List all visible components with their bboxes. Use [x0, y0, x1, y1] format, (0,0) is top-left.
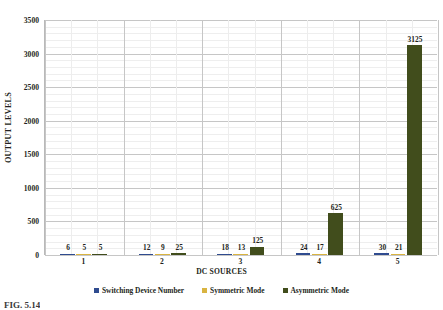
y-axis-tick-labels: 0500100015002000250030003500 [14, 20, 42, 255]
x-axis-category: 1 [81, 257, 85, 266]
bar-value-label: 125 [252, 236, 263, 245]
bar[interactable] [250, 247, 265, 255]
y-axis-tick: 500 [28, 217, 39, 226]
bar[interactable] [139, 254, 154, 255]
x-axis-category: 5 [396, 257, 400, 266]
y-axis-tick: 0 [35, 251, 39, 260]
bar-value-label: 3125 [408, 35, 423, 44]
legend-item[interactable]: Symmetric Mode [202, 286, 264, 295]
bar[interactable] [312, 254, 327, 255]
x-axis-category: 4 [317, 257, 321, 266]
major-gridline-vertical [438, 20, 439, 255]
bar-value-label: 625 [331, 203, 342, 212]
legend-item[interactable]: Switching Device Number [94, 286, 184, 295]
chart-legend: Switching Device NumberSymmetric ModeAsy… [0, 286, 443, 295]
bar[interactable] [217, 254, 232, 255]
legend-label: Asymmetric Mode [291, 286, 350, 295]
bar-chart: OUTPUT LEVELS 05001000150020002500300035… [0, 0, 443, 310]
bar-value-label: 12 [143, 243, 150, 252]
bar-value-label: 6 [66, 243, 70, 252]
bar[interactable] [76, 254, 91, 255]
y-axis-tick: 3500 [24, 16, 39, 25]
bar[interactable] [171, 253, 186, 255]
x-axis-category: 3 [239, 257, 243, 266]
bar-value-label: 13 [238, 243, 245, 252]
legend-swatch-icon [94, 288, 99, 293]
bar-value-label: 21 [395, 243, 402, 252]
y-axis-title-text: OUTPUT LEVELS [4, 92, 13, 163]
legend-label: Symmetric Mode [210, 286, 264, 295]
y-axis-tick: 2000 [24, 116, 39, 125]
bar-value-label: 25 [175, 243, 182, 252]
legend-item[interactable]: Asymmetric Mode [283, 286, 350, 295]
bar[interactable] [328, 213, 343, 255]
y-axis-tick: 2500 [24, 83, 39, 92]
bar-value-label: 5 [99, 243, 103, 252]
major-gridline-horizontal [45, 255, 437, 256]
legend-swatch-icon [283, 288, 288, 293]
x-axis-title: DC SOURCES [0, 267, 443, 276]
bar-value-label: 5 [82, 243, 86, 252]
bar[interactable] [92, 254, 107, 255]
bar[interactable] [233, 254, 248, 255]
bar[interactable] [374, 253, 389, 255]
x-axis-category: 2 [160, 257, 164, 266]
bars-layer: 655129251813125241762530213125 [45, 20, 437, 255]
bar-value-label: 30 [379, 243, 386, 252]
legend-swatch-icon [202, 288, 207, 293]
y-axis-tick: 1000 [24, 183, 39, 192]
bar[interactable] [60, 254, 75, 255]
legend-label: Switching Device Number [102, 286, 184, 295]
bar[interactable] [296, 253, 311, 255]
y-axis-tick: 1500 [24, 150, 39, 159]
y-axis-tick: 3000 [24, 49, 39, 58]
bar-value-label: 9 [161, 243, 165, 252]
bar-value-label: 18 [222, 243, 229, 252]
bar-value-label: 17 [316, 243, 323, 252]
plot-area: 655129251813125241762530213125 [44, 20, 437, 255]
figure-caption: FIG. 5.14 [4, 300, 40, 310]
bar-value-label: 24 [300, 243, 307, 252]
bar[interactable] [391, 254, 406, 255]
bar[interactable] [407, 45, 422, 255]
bar[interactable] [155, 254, 170, 255]
